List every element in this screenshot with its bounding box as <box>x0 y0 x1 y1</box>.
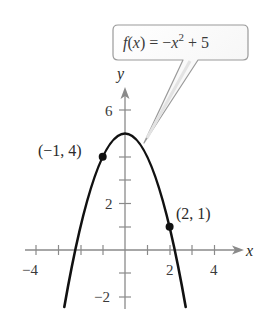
x-tick-label-2: 2 <box>166 262 174 278</box>
x-tick-label-neg4: −4 <box>22 262 38 278</box>
function-callout: f(x) = −x2 + 5 <box>113 25 248 143</box>
point-label-neg1-4: (−1, 4) <box>38 142 82 160</box>
y-axis-label: y <box>115 65 125 83</box>
y-tick-label-neg2: −2 <box>94 289 110 305</box>
chart-canvas: −4 2 4 x 6 2 −2 y (−1, 4) (2, 1) f(x) = <box>0 0 270 326</box>
x-tick-label-4: 4 <box>210 262 218 278</box>
x-axis-label: x <box>245 242 253 259</box>
point-neg1-4 <box>99 153 107 161</box>
x-axis: −4 2 4 x <box>22 242 253 278</box>
y-axis: 6 2 −2 y <box>94 65 131 309</box>
y-tick-label-6: 6 <box>105 103 113 119</box>
y-tick-label-2: 2 <box>105 196 113 212</box>
function-label: f(x) = −x2 + 5 <box>123 31 209 52</box>
point-2-1 <box>166 223 174 231</box>
point-label-2-1: (2, 1) <box>176 205 211 223</box>
